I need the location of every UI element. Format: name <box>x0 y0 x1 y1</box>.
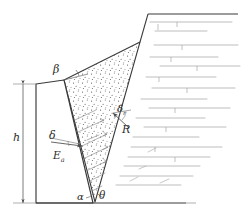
label-delta-r: δr <box>117 104 126 116</box>
label-theta: θ <box>99 190 105 201</box>
label-beta: β <box>53 64 59 75</box>
label-reaction-R: R <box>122 124 130 135</box>
label-active-earth-pressure: Ea <box>53 150 65 164</box>
figure-canvas: β δ Ea δr R α θ h <box>0 0 241 221</box>
hatch-oblique-dashes <box>130 148 169 183</box>
slope-face-line <box>140 14 148 42</box>
label-Ea-subscript: a <box>61 156 65 164</box>
label-Ea-base: E <box>53 149 61 161</box>
hatch-tick-marks <box>155 22 197 162</box>
label-alpha: α <box>77 192 84 202</box>
label-delta: δ <box>49 130 56 141</box>
label-delta-r-subscript: r <box>123 109 126 116</box>
label-wall-height: h <box>13 132 20 143</box>
